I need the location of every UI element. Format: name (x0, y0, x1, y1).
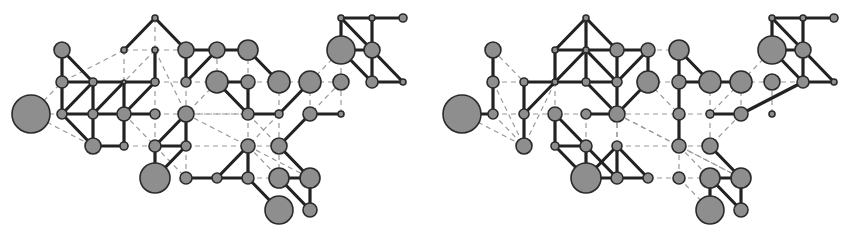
graph-node (54, 42, 70, 58)
solid-edge (555, 50, 586, 82)
right-nodes (443, 14, 838, 224)
graph-node (485, 42, 501, 58)
graph-node (303, 203, 317, 217)
graph-node (797, 76, 809, 88)
graph-node (699, 71, 721, 93)
graph-node (57, 109, 67, 119)
graph-node (795, 42, 811, 58)
graph-node (643, 173, 653, 183)
graph-node (487, 76, 499, 88)
graph-node (800, 15, 806, 21)
graph-node (443, 95, 481, 133)
graph-node (583, 15, 589, 21)
graph-node (120, 142, 128, 150)
graph-node (702, 138, 718, 154)
graph-node (151, 78, 159, 86)
graph-node (242, 172, 254, 184)
graph-node (696, 196, 724, 224)
graph-node (734, 203, 748, 217)
graph-node (122, 80, 126, 84)
graph-node (88, 109, 98, 119)
graph-node (611, 172, 623, 184)
graph-node (152, 47, 158, 53)
graph-node (271, 138, 287, 154)
graph-node (731, 168, 751, 188)
graph-node (673, 108, 685, 120)
left-nodes (12, 14, 407, 224)
graph-node (268, 71, 290, 93)
graph-node (338, 111, 344, 117)
graph-node (338, 15, 344, 21)
graph-node (610, 43, 624, 57)
graph-node (333, 74, 349, 90)
graph-node (89, 78, 97, 86)
graph-node (520, 78, 528, 86)
graph-node (121, 47, 127, 53)
graph-node (242, 108, 254, 120)
graph-node (641, 43, 655, 57)
graph-node (209, 42, 225, 58)
graph-node (706, 110, 714, 118)
graph-node (580, 140, 592, 152)
graph-node (730, 71, 752, 93)
right-dashed-edges (462, 50, 803, 210)
graph-node (764, 74, 780, 90)
graph-node (830, 14, 838, 22)
graph-node (609, 106, 625, 122)
graph-node (364, 42, 380, 58)
graph-node (12, 95, 50, 133)
graph-node (149, 140, 161, 152)
solid-edge (555, 18, 586, 50)
graph-node (303, 107, 317, 121)
graph-node (758, 36, 786, 64)
graph-node (265, 196, 293, 224)
graph-node (178, 106, 194, 122)
graph-node (140, 163, 170, 193)
graph-node (673, 172, 685, 184)
graph-node (241, 75, 255, 89)
left-graph-panel (12, 14, 407, 224)
graph-node (399, 14, 407, 22)
graph-figure (0, 0, 841, 230)
graph-node (582, 78, 590, 86)
graph-node (152, 15, 158, 21)
graph-node (366, 76, 378, 88)
graph-node (117, 107, 131, 121)
graph-node (612, 77, 622, 87)
graph-node (519, 109, 529, 119)
graph-node (516, 138, 532, 154)
graph-node (581, 109, 591, 119)
graph-node (672, 75, 686, 89)
graph-node (299, 71, 321, 93)
graph-node (552, 79, 558, 85)
graph-node (551, 142, 559, 150)
graph-node (56, 76, 68, 88)
graph-node (206, 71, 228, 93)
graph-node (571, 163, 601, 193)
graph-node (769, 15, 775, 21)
graph-node (734, 107, 748, 121)
graph-node (369, 15, 375, 21)
graph-node (831, 79, 837, 85)
graph-node (548, 107, 562, 121)
graph-node (241, 139, 255, 153)
graph-node (700, 168, 720, 188)
graph-node (178, 42, 194, 58)
graph-node (150, 109, 160, 119)
graph-node (552, 47, 558, 53)
graph-node (181, 77, 191, 87)
solid-edge (124, 18, 155, 50)
graph-node (612, 141, 622, 151)
graph-node (327, 36, 355, 64)
graph-node (669, 40, 689, 60)
dashed-edge (186, 114, 248, 146)
graph-node (300, 168, 320, 188)
graph-node (212, 173, 222, 183)
graph-node (238, 40, 258, 60)
graph-node (180, 172, 192, 184)
dashed-edge (124, 50, 155, 82)
graph-node (637, 71, 659, 93)
graph-node (269, 168, 289, 188)
graph-node (181, 141, 191, 151)
graph-node (583, 47, 589, 53)
